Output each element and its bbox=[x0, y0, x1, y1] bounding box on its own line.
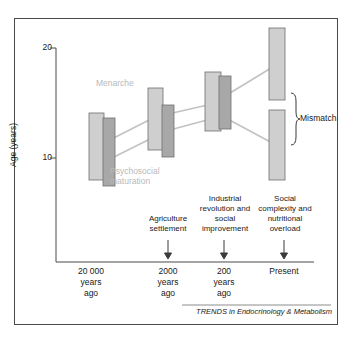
journal-credit: TRENDS in Endocrinology & Metabolism bbox=[180, 307, 332, 316]
timeline-label-2000-years-ago: 2000 years ago bbox=[139, 266, 197, 299]
annotation-mismatch: Mismatch bbox=[300, 113, 336, 123]
arrow-head-social bbox=[281, 253, 288, 259]
mismatch-brace bbox=[291, 93, 300, 145]
timeline-label-present: Present bbox=[252, 266, 316, 277]
y-tick-label-10: 10 bbox=[30, 152, 52, 162]
series-label-psychosocial-maturation: Psychosocial maturation bbox=[110, 167, 160, 186]
figure-root: Age (years) 20 10 Menarche Psychosocial … bbox=[0, 0, 353, 343]
event-label-agriculture-settlement: Agriculture settlement bbox=[140, 214, 196, 234]
event-arrows bbox=[165, 240, 288, 259]
bar-group-2000-years-ago bbox=[148, 88, 174, 157]
series-label-menarche: Menarche bbox=[96, 79, 134, 89]
arrow-head-industrial bbox=[221, 253, 228, 259]
timeline-label-200-years-ago: 200 years ago bbox=[195, 266, 253, 299]
bar-group-present bbox=[269, 28, 285, 180]
y-tick-label-20: 20 bbox=[30, 42, 52, 52]
bar-psychosocial-present bbox=[269, 110, 285, 180]
bar-menarche-20000 bbox=[89, 113, 104, 180]
bar-menarche-present bbox=[269, 28, 285, 100]
event-label-social-complexity: Social complexity and nutritional overlo… bbox=[254, 194, 316, 234]
timeline-label-20000-years-ago: 20 000 years ago bbox=[60, 266, 122, 299]
y-axis-title: Age (years) bbox=[8, 110, 18, 180]
bar-psychosocial-2000 bbox=[162, 105, 174, 157]
event-label-industrial-revolution: Industrial revolution and social improve… bbox=[193, 194, 257, 234]
bar-psychosocial-200 bbox=[219, 76, 231, 129]
arrow-head-agriculture bbox=[165, 253, 172, 259]
bar-menarche-2000 bbox=[148, 88, 163, 150]
bar-group-200-years-ago bbox=[205, 72, 231, 131]
